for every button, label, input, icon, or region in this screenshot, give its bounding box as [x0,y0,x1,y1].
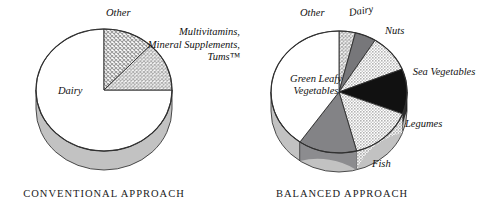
label-multivitamins-conventional: Multivitamins, Mineral Supplements, Tums… [146,26,240,64]
label-sea-vegetables-balanced: Sea Vegetables [404,66,480,78]
label-nuts-balanced: Nuts [385,25,404,37]
label-dairy-conventional: Dairy [58,85,83,97]
label-legumes-balanced: Legumes [405,118,442,130]
label-green-leafy-balanced: Green Leafy Vegetables [276,73,356,97]
label-fish-balanced: Fish [372,158,391,170]
caption-balanced: BALANCED APPROACH [262,188,422,199]
pie-balanced [271,31,407,172]
label-other-conventional: Other [106,7,131,19]
label-other-balanced: Other [300,7,325,19]
caption-conventional: CONVENTIONAL APPROACH [18,188,190,199]
